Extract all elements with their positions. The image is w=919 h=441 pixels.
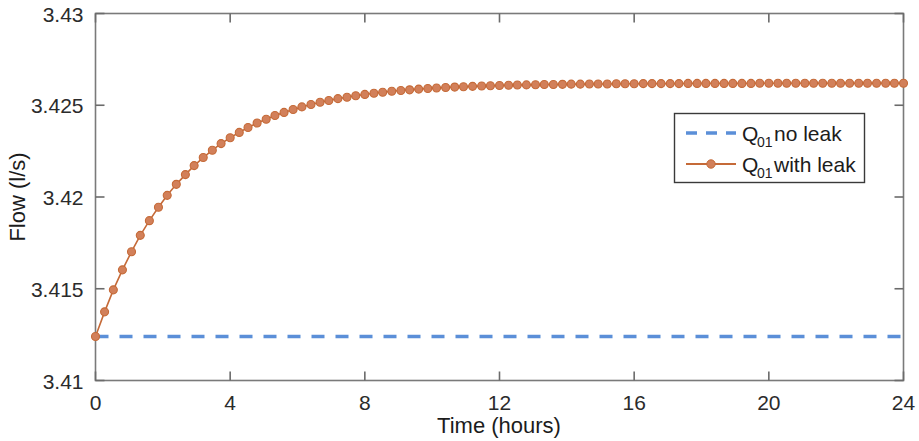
x-tick-label: 0 <box>90 391 102 414</box>
data-point-marker <box>837 79 845 87</box>
data-point-marker <box>469 82 477 90</box>
y-tick-label: 3.41 <box>43 370 84 393</box>
data-point-marker <box>594 80 602 88</box>
data-point-marker <box>316 98 324 106</box>
legend-label-no-leak-rest: no leak <box>774 122 842 145</box>
data-point-marker <box>693 79 701 87</box>
data-point-marker <box>513 81 521 89</box>
data-point-marker <box>451 83 459 91</box>
x-tick-label: 4 <box>224 391 236 414</box>
data-point-marker <box>792 79 800 87</box>
data-point-marker <box>702 79 710 87</box>
data-point-marker <box>684 79 692 87</box>
data-point-marker <box>675 80 683 88</box>
data-point-marker <box>397 87 405 95</box>
x-tick-label: 8 <box>359 391 371 414</box>
legend-label-no-leak-main: Q <box>742 122 758 145</box>
data-point-marker <box>406 86 414 94</box>
data-point-marker <box>352 92 360 100</box>
data-point-marker <box>361 90 369 98</box>
data-point-marker <box>576 80 584 88</box>
data-point-marker <box>801 79 809 87</box>
data-point-marker <box>136 231 144 239</box>
data-point-marker <box>370 89 378 97</box>
data-point-marker <box>433 84 441 92</box>
data-point-marker <box>118 266 126 274</box>
chart-figure: 04812162024 3.413.4153.423.4253.43 Time … <box>0 0 919 441</box>
y-axis-ticks <box>96 14 904 381</box>
data-point-marker <box>540 81 548 89</box>
data-point-marker <box>334 95 342 103</box>
x-tick-label: 24 <box>892 391 916 414</box>
data-point-marker <box>890 79 898 87</box>
data-point-marker <box>199 154 207 162</box>
data-point-marker <box>415 85 423 93</box>
x-axis-title: Time (hours) <box>437 413 561 438</box>
data-point-marker <box>612 80 620 88</box>
data-point-marker <box>846 79 854 87</box>
y-tick-label: 3.425 <box>31 94 84 117</box>
data-point-marker <box>496 81 504 89</box>
x-axis-ticks <box>96 14 904 381</box>
data-point-marker <box>765 79 773 87</box>
data-point-marker <box>729 79 737 87</box>
data-point-marker <box>648 80 656 88</box>
data-point-marker <box>828 79 836 87</box>
data-point-marker <box>603 80 611 88</box>
data-point-marker <box>262 115 270 123</box>
data-point-marker <box>145 217 153 225</box>
data-point-marker <box>289 105 297 113</box>
x-axis-tick-labels: 04812162024 <box>90 391 916 414</box>
data-point-marker <box>217 140 225 148</box>
data-point-marker <box>863 79 871 87</box>
chart-legend: Q 01 no leak Q 01 with leak <box>675 114 865 183</box>
data-point-marker <box>478 82 486 90</box>
legend-label-with-leak-sub: 01 <box>757 165 773 181</box>
data-point-marker <box>810 79 818 87</box>
data-point-marker <box>532 81 540 89</box>
data-point-marker <box>882 79 890 87</box>
legend-label-with-leak-rest: with leak <box>773 153 856 176</box>
data-point-marker <box>486 82 494 90</box>
data-point-marker <box>711 79 719 87</box>
legend-marker-with-leak <box>707 160 715 168</box>
data-point-marker <box>873 79 881 87</box>
data-point-marker <box>226 134 234 142</box>
data-point-marker <box>424 85 432 93</box>
data-point-marker <box>639 80 647 88</box>
data-point-marker <box>720 79 728 87</box>
data-point-marker <box>522 81 530 89</box>
flow-time-line-chart: 04812162024 3.413.4153.423.4253.43 Time … <box>0 0 919 441</box>
data-point-marker <box>343 93 351 101</box>
y-tick-label: 3.43 <box>43 3 84 26</box>
data-point-marker <box>163 191 171 199</box>
data-point-marker <box>459 83 467 91</box>
data-point-marker <box>549 81 557 89</box>
data-point-marker <box>208 146 216 154</box>
x-tick-label: 20 <box>757 391 780 414</box>
data-point-marker <box>621 80 629 88</box>
data-point-marker <box>505 81 513 89</box>
data-point-marker <box>657 80 665 88</box>
data-point-marker <box>298 103 306 111</box>
data-point-marker <box>855 79 863 87</box>
data-point-marker <box>900 79 908 87</box>
data-point-marker <box>567 80 575 88</box>
data-point-marker <box>92 332 100 340</box>
data-point-marker <box>630 80 638 88</box>
data-point-marker <box>190 162 198 170</box>
data-point-marker <box>783 79 791 87</box>
data-point-marker <box>325 96 333 104</box>
data-point-marker <box>774 79 782 87</box>
data-point-marker <box>307 101 315 109</box>
data-point-marker <box>271 112 279 120</box>
data-point-marker <box>442 83 450 91</box>
data-point-marker <box>172 180 180 188</box>
legend-label-with-leak-main: Q <box>742 153 758 176</box>
data-point-marker <box>819 79 827 87</box>
data-point-marker <box>738 79 746 87</box>
data-point-marker <box>666 80 674 88</box>
data-point-marker <box>585 80 593 88</box>
data-point-marker <box>558 80 566 88</box>
axes-frame <box>96 14 904 381</box>
